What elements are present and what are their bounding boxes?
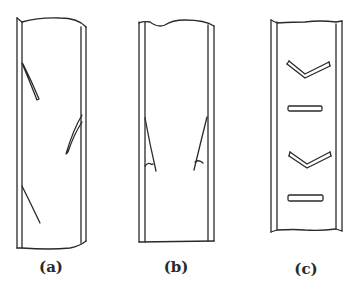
tube-c-bottom-edge (271, 229, 342, 232)
crack-b-left-hook (145, 163, 153, 166)
tube-b-top-edge (139, 20, 214, 26)
bar-c-lower (288, 195, 323, 201)
crack-a-middle-right (66, 115, 82, 154)
chevron-c-lower-endcap-right (330, 152, 331, 156)
tube-c (271, 20, 342, 232)
chevron-c-upper-inner (289, 61, 329, 74)
bar-c-upper (288, 106, 322, 111)
tube-a (17, 18, 86, 249)
tube-c-top-edge (271, 20, 342, 23)
diagram-canvas (0, 0, 352, 287)
tube-b-bottom-edge (139, 241, 214, 242)
chevron-c-lower-inner (290, 152, 330, 164)
crack-a-lower-left (22, 186, 40, 223)
crack-a-upper-left (22, 63, 39, 100)
panel-label-c: (c) (294, 260, 317, 278)
tube-b (139, 20, 214, 242)
panel-label-a: (a) (39, 258, 63, 276)
chevron-c-upper-endcap-right (329, 62, 330, 66)
chevron-c-upper-endcap-left (287, 61, 289, 64)
tube-a-bottom-edge (17, 241, 86, 249)
panel-label-b: (b) (164, 258, 189, 276)
chevron-c-upper-outer (287, 64, 330, 78)
tube-a-top-edge (17, 18, 86, 27)
chevron-c-lower-endcap-left (289, 152, 290, 156)
